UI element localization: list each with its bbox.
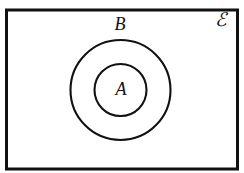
euler-diagram-svg: ℰ B A xyxy=(0,0,244,173)
universal-set-label: ℰ xyxy=(215,9,229,30)
set-a-label: A xyxy=(115,79,128,99)
set-b-label: B xyxy=(115,14,126,34)
diagram-canvas: ℰ B A xyxy=(0,0,244,173)
